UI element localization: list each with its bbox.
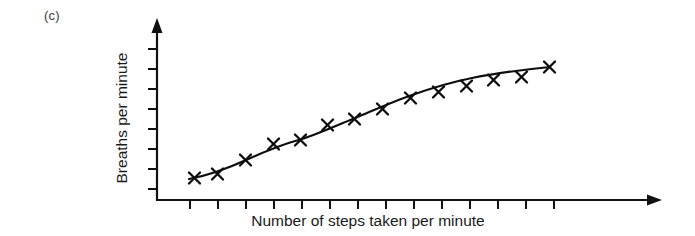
data-point xyxy=(461,81,472,92)
y-axis xyxy=(148,18,163,201)
y-axis-title: Breaths per minute xyxy=(113,53,130,184)
x-axis-arrowhead xyxy=(647,195,662,206)
y-axis-ticks xyxy=(148,49,157,189)
data-point xyxy=(240,155,251,166)
chart-canvas: Breaths per minute Number of steps taken… xyxy=(0,0,695,236)
data-point xyxy=(433,87,444,98)
data-point xyxy=(516,72,527,83)
data-markers xyxy=(189,62,555,184)
x-axis-ticks xyxy=(190,200,554,209)
data-point xyxy=(212,169,223,180)
y-axis-arrowhead xyxy=(152,18,163,33)
figure-panel: (c) xyxy=(0,0,695,236)
x-axis-title: Number of steps taken per minute xyxy=(251,212,484,229)
x-axis xyxy=(157,195,662,210)
data-point xyxy=(488,75,499,86)
